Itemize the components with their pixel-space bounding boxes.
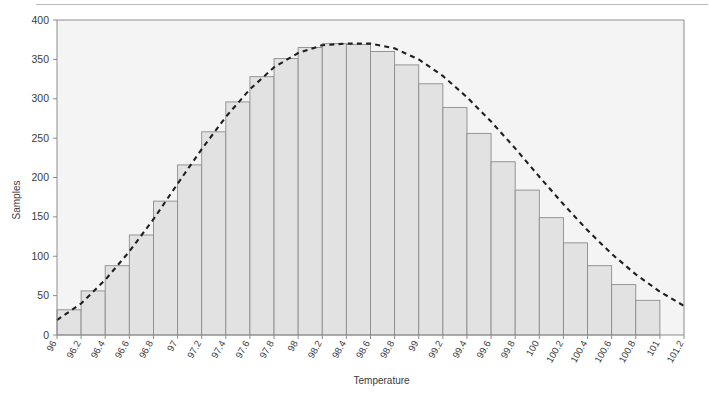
x-tick-label: 96.4	[88, 339, 107, 361]
table-row[interactable]	[491, 162, 515, 335]
x-tick-label: 100.6	[592, 339, 613, 365]
table-row[interactable]	[202, 132, 226, 335]
x-tick-label: 97.4	[209, 339, 228, 361]
table-row[interactable]	[443, 107, 467, 335]
table-row[interactable]	[129, 235, 153, 335]
table-row[interactable]	[274, 59, 298, 335]
x-tick-label: 99.2	[426, 339, 445, 361]
x-tick-label: 100.4	[568, 339, 589, 365]
x-tick-label: 96	[44, 339, 59, 354]
table-row[interactable]	[371, 52, 395, 336]
x-tick-label: 98	[285, 339, 300, 354]
x-tick-label: 101.2	[664, 339, 685, 365]
y-tick-label: 100	[31, 250, 49, 262]
y-tick-label: 150	[31, 210, 49, 222]
x-tick-label: 98.4	[329, 339, 348, 361]
y-axis-title: Samples	[11, 181, 22, 220]
x-tick-label: 96.2	[64, 339, 83, 361]
x-tick-label: 98.2	[305, 339, 324, 361]
table-row[interactable]	[395, 65, 419, 335]
table-row[interactable]	[612, 285, 636, 335]
x-tick-label: 98.6	[353, 339, 372, 361]
table-row[interactable]	[346, 44, 370, 335]
x-tick-label: 96.8	[136, 339, 155, 361]
x-tick-label: 101	[644, 339, 661, 358]
y-tick-label: 300	[31, 92, 49, 104]
x-tick-label: 97.2	[185, 339, 204, 361]
x-tick-label: 99	[406, 339, 421, 354]
table-row[interactable]	[250, 77, 274, 335]
table-row[interactable]	[226, 102, 250, 335]
y-tick-label: 200	[31, 171, 49, 183]
y-tick-label: 50	[37, 289, 49, 301]
x-tick-label: 97.6	[233, 339, 252, 361]
table-row[interactable]	[515, 190, 539, 335]
x-tick-label: 97	[164, 339, 179, 354]
x-tick-label: 100.8	[616, 339, 637, 365]
table-row[interactable]	[322, 44, 346, 335]
table-row[interactable]	[539, 218, 563, 335]
table-row[interactable]	[588, 266, 612, 335]
x-tick-label: 100.2	[544, 339, 565, 365]
table-row[interactable]	[57, 310, 81, 335]
histogram-chart: 0501001502002503003504009696.296.496.696…	[0, 0, 709, 408]
table-row[interactable]	[636, 300, 660, 335]
x-tick-label: 99.8	[498, 339, 517, 361]
x-tick-label: 96.6	[112, 339, 131, 361]
table-row[interactable]	[81, 291, 105, 335]
x-tick-label: 98.8	[378, 339, 397, 361]
y-axis-ticks: 050100150200250300350400	[31, 14, 57, 341]
x-tick-label: 99.4	[450, 339, 469, 361]
table-row[interactable]	[153, 201, 177, 335]
table-row[interactable]	[298, 48, 322, 335]
chart-page: 0501001502002503003504009696.296.496.696…	[0, 0, 709, 408]
x-tick-label: 97.8	[257, 339, 276, 361]
x-tick-label: 99.6	[474, 339, 493, 361]
y-tick-label: 250	[31, 132, 49, 144]
x-axis-ticks: 9696.296.496.696.89797.297.497.697.89898…	[44, 335, 686, 365]
x-tick-label: 100	[524, 339, 541, 358]
table-row[interactable]	[419, 84, 443, 335]
y-tick-label: 350	[31, 53, 49, 65]
table-row[interactable]	[467, 133, 491, 335]
x-axis-title: Temperature	[354, 375, 411, 386]
y-tick-label: 400	[31, 14, 49, 26]
table-row[interactable]	[563, 243, 587, 335]
table-row[interactable]	[178, 165, 202, 335]
